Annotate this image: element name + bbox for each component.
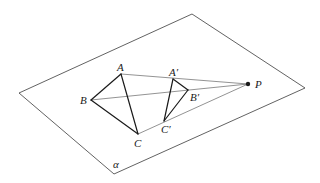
label-A: A <box>116 61 124 73</box>
edge-AC <box>121 74 138 134</box>
edge-BC <box>91 100 138 134</box>
label-alpha: α <box>113 158 119 170</box>
label-C: C <box>134 137 142 149</box>
plane-alpha <box>19 14 305 174</box>
label-C-prime: C′ <box>161 123 171 135</box>
homothety-diagram: A B C A′ B′ C′ P α <box>0 0 320 183</box>
edge-A1B1 <box>173 79 188 90</box>
label-B-prime: B′ <box>190 91 200 103</box>
edge-AB <box>91 74 121 100</box>
line-A-P <box>121 74 248 84</box>
label-B: B <box>80 94 87 106</box>
point-P-dot <box>246 82 250 86</box>
label-P: P <box>254 78 262 90</box>
label-A-prime: A′ <box>168 66 179 78</box>
